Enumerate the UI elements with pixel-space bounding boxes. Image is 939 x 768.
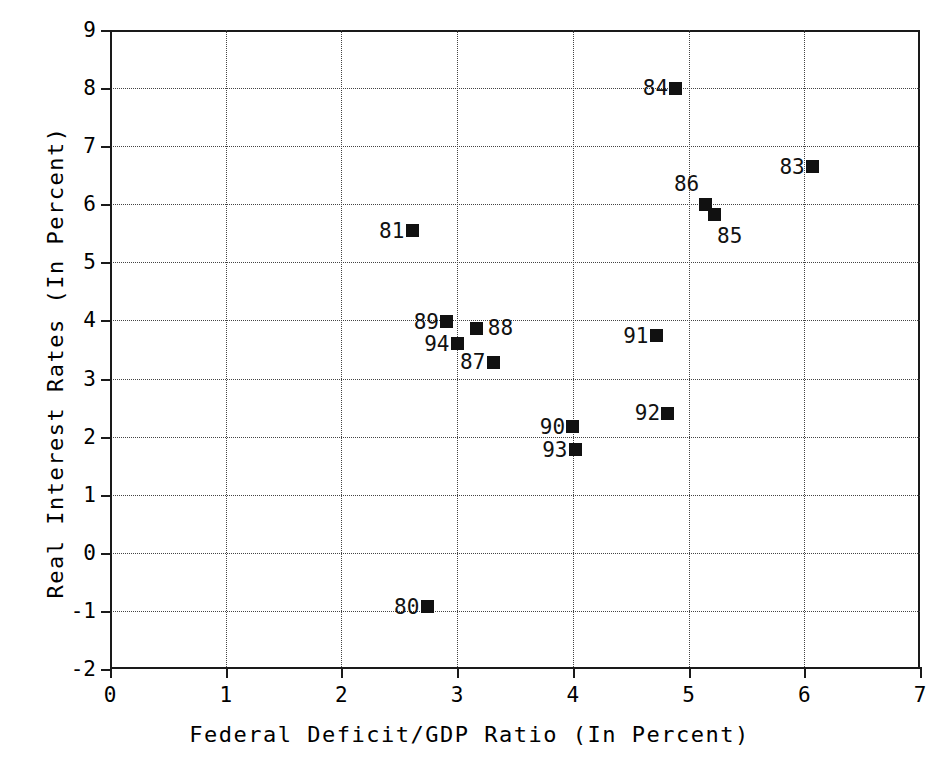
plot-area: 8081838485868788899091929394 <box>110 30 920 669</box>
data-point-marker <box>806 160 819 173</box>
gridline-horizontal <box>110 611 920 612</box>
tick-mark-y <box>101 88 112 90</box>
tick-mark-y <box>101 611 112 613</box>
gridline-horizontal <box>110 204 920 205</box>
data-point-marker <box>566 420 579 433</box>
data-point-label: 87 <box>460 352 485 373</box>
data-point-marker <box>487 356 500 369</box>
tick-mark-x <box>920 667 922 678</box>
data-point-marker <box>440 315 453 328</box>
tick-mark-y <box>101 204 112 206</box>
data-point-marker <box>650 329 663 342</box>
gridline-vertical <box>226 30 227 669</box>
data-point-label: 86 <box>674 174 699 195</box>
x-tick-label: 2 <box>311 685 371 706</box>
data-point-marker <box>661 407 674 420</box>
x-tick-label: 6 <box>774 685 834 706</box>
data-point-label: 80 <box>394 597 419 618</box>
x-tick-label: 7 <box>890 685 939 706</box>
gridline-vertical <box>804 30 805 669</box>
gridline-horizontal <box>110 262 920 263</box>
tick-mark-x <box>689 667 691 678</box>
tick-mark-y <box>101 320 112 322</box>
tick-mark-x <box>226 667 228 678</box>
gridline-vertical <box>573 30 574 669</box>
gridline-horizontal <box>110 379 920 380</box>
x-tick-label: 0 <box>80 685 140 706</box>
plot-border-left <box>110 30 112 669</box>
plot-border-right <box>918 30 920 669</box>
tick-mark-y <box>101 495 112 497</box>
x-tick-label: 3 <box>427 685 487 706</box>
data-point-marker <box>406 224 419 237</box>
plot-border-bottom <box>110 667 920 669</box>
tick-mark-x <box>457 667 459 678</box>
x-tick-label: 5 <box>659 685 719 706</box>
plot-border-top <box>110 30 920 32</box>
x-tick-label: 1 <box>196 685 256 706</box>
y-axis-title: Real Interest Rates (In Percent) <box>43 13 68 713</box>
data-point-label: 91 <box>623 326 648 347</box>
tick-mark-y <box>101 30 112 32</box>
x-tick-label: 4 <box>543 685 603 706</box>
scatter-chart: 8081838485868788899091929394 9876543210-… <box>0 0 939 768</box>
data-point-marker <box>699 198 712 211</box>
tick-mark-y <box>101 437 112 439</box>
data-point-label: 89 <box>414 312 439 333</box>
gridline-vertical <box>341 30 342 669</box>
tick-mark-x <box>341 667 343 678</box>
tick-mark-y <box>101 262 112 264</box>
data-point-label: 84 <box>643 78 668 99</box>
gridline-horizontal <box>110 553 920 554</box>
data-point-label: 92 <box>635 403 660 424</box>
gridline-vertical <box>689 30 690 669</box>
gridline-horizontal <box>110 495 920 496</box>
data-point-marker <box>451 337 464 350</box>
data-point-label: 88 <box>488 318 513 339</box>
data-point-label: 81 <box>379 221 404 242</box>
data-point-marker <box>669 82 682 95</box>
data-point-marker <box>470 322 483 335</box>
gridline-horizontal <box>110 146 920 147</box>
tick-mark-y <box>101 146 112 148</box>
x-axis-title: Federal Deficit/GDP Ratio (In Percent) <box>0 722 939 747</box>
data-point-label: 83 <box>779 157 804 178</box>
tick-mark-x <box>804 667 806 678</box>
gridline-horizontal <box>110 437 920 438</box>
data-point-marker <box>569 443 582 456</box>
data-point-label: 94 <box>424 334 449 355</box>
data-point-label: 90 <box>540 417 565 438</box>
tick-mark-y <box>101 379 112 381</box>
data-point-label: 85 <box>717 226 742 247</box>
data-point-label: 93 <box>542 440 567 461</box>
gridline-horizontal <box>110 320 920 321</box>
data-point-marker <box>421 600 434 613</box>
gridline-horizontal <box>110 88 920 89</box>
tick-mark-y <box>101 553 112 555</box>
tick-mark-x <box>573 667 575 678</box>
tick-mark-x <box>110 667 112 678</box>
